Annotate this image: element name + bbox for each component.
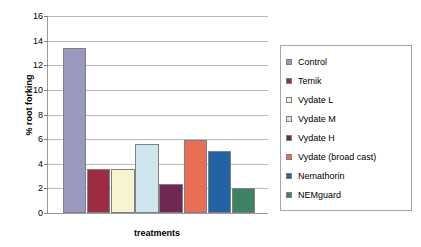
y-tick-label: 10: [33, 85, 43, 95]
legend-swatch-icon: [286, 135, 292, 141]
x-axis-title: treatments: [47, 228, 267, 238]
y-tick-mark: [44, 213, 48, 214]
bar-series: [48, 16, 268, 213]
legend-swatch-icon: [286, 192, 292, 198]
chart-legend: ControlTemikVydate LVydate MVydate HVyda…: [280, 45, 412, 211]
legend-swatch-icon: [286, 154, 292, 160]
bar: [63, 48, 86, 213]
bar: [87, 169, 110, 213]
legend-item: NEMguard: [286, 185, 406, 204]
legend-swatch-icon: [286, 59, 292, 65]
legend-item-label: Temik: [298, 76, 322, 86]
legend-item: Control: [286, 52, 406, 71]
legend-item-label: Vydate H: [298, 133, 335, 143]
legend-item: Vydate L: [286, 90, 406, 109]
bar: [135, 144, 158, 213]
legend-item: Temik: [286, 71, 406, 90]
y-tick-label: 6: [38, 134, 43, 144]
legend-swatch-icon: [286, 97, 292, 103]
y-tick-label: 2: [38, 183, 43, 193]
y-tick-label: 12: [33, 60, 43, 70]
bar: [208, 151, 231, 213]
legend-item-label: Vydate (broad cast): [298, 152, 376, 162]
legend-item: Vydate (broad cast): [286, 147, 406, 166]
legend-swatch-icon: [286, 116, 292, 122]
legend-item-label: Vydate M: [298, 114, 336, 124]
legend-item-label: NEMguard: [298, 190, 341, 200]
y-tick-label: 4: [38, 159, 43, 169]
legend-item-label: Vydate L: [298, 95, 333, 105]
y-tick-label: 8: [38, 110, 43, 120]
legend-item-label: Nemathorin: [298, 171, 345, 181]
y-tick-label: 16: [33, 11, 43, 21]
bar: [232, 188, 255, 213]
y-tick-label: 0: [38, 208, 43, 218]
bar: [111, 169, 134, 213]
bar-chart: % root forking 0246810121416 treatments …: [0, 0, 421, 247]
legend-item-label: Control: [298, 57, 327, 67]
legend-item: Vydate H: [286, 128, 406, 147]
legend-swatch-icon: [286, 78, 292, 84]
plot-area: 0246810121416: [47, 16, 268, 214]
legend-swatch-icon: [286, 173, 292, 179]
y-tick-label: 14: [33, 36, 43, 46]
bar: [184, 140, 207, 213]
legend-item: Vydate M: [286, 109, 406, 128]
legend-item: Nemathorin: [286, 166, 406, 185]
bar: [159, 184, 182, 213]
